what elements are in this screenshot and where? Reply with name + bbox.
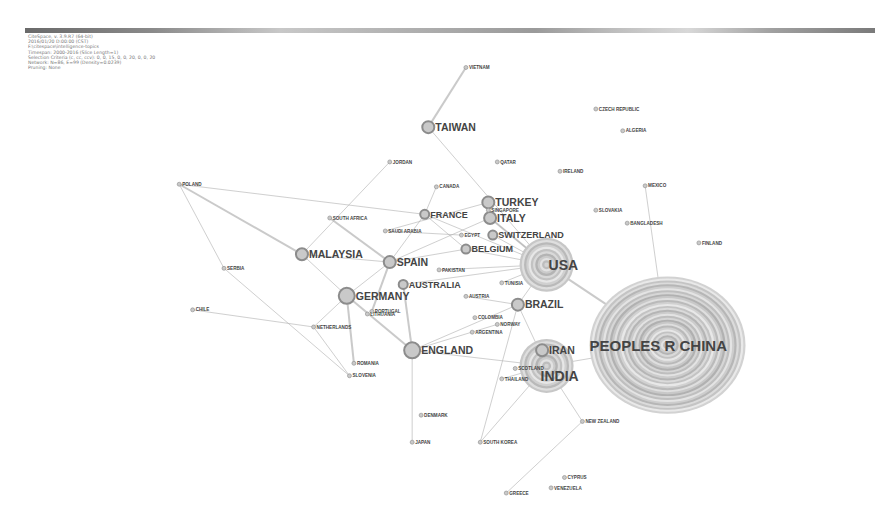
- node-canada[interactable]: [434, 185, 438, 189]
- node-label-slovakia: SLOVAKIA: [599, 208, 623, 213]
- edge-germany-malaysia: [302, 254, 347, 296]
- node-poland[interactable]: [177, 182, 181, 186]
- node-belgium[interactable]: [461, 245, 470, 254]
- node-finland[interactable]: [697, 241, 701, 245]
- node-circle: [410, 440, 414, 444]
- node-label-canada: CANADA: [439, 184, 460, 189]
- node-circle: [437, 268, 441, 272]
- node-vietnam[interactable]: [464, 65, 468, 69]
- node-colombia[interactable]: [473, 316, 477, 320]
- node-label-lithuania: LITHUANIA: [370, 312, 395, 317]
- node-malaysia[interactable]: [296, 248, 308, 260]
- node-saudi-arabia[interactable]: [383, 229, 387, 233]
- node-circle: [500, 377, 504, 381]
- node-label-south-korea: SOUTH KOREA: [483, 440, 518, 445]
- node-cyprus[interactable]: [562, 475, 566, 479]
- node-chile[interactable]: [191, 308, 195, 312]
- node-ireland[interactable]: [558, 169, 562, 173]
- node-algeria[interactable]: [621, 129, 625, 133]
- node-circle: [461, 245, 470, 254]
- node-england[interactable]: [404, 342, 420, 358]
- node-italy[interactable]: [484, 212, 496, 224]
- node-slovakia[interactable]: [594, 208, 598, 212]
- node-label-serbia: SERBIA: [227, 266, 245, 271]
- node-circle: [384, 256, 396, 268]
- node-germany[interactable]: [339, 288, 355, 304]
- node-label-cyprus: CYPRUS: [567, 475, 586, 480]
- node-slovenia[interactable]: [347, 374, 351, 378]
- node-circle: [478, 440, 482, 444]
- node-circle: [191, 308, 195, 312]
- node-bangladesh[interactable]: [625, 221, 629, 225]
- node-label-taiwan: TAIWAN: [435, 121, 476, 133]
- node-circle: [352, 361, 356, 365]
- node-singapore[interactable]: [486, 208, 490, 212]
- node-scotland[interactable]: [513, 366, 517, 370]
- node-label-new-zealand: NEW ZEALAND: [585, 419, 620, 424]
- node-label-england: ENGLAND: [421, 344, 473, 356]
- node-egypt[interactable]: [459, 233, 463, 237]
- node-circle: [422, 121, 434, 133]
- node-circle: [504, 491, 508, 495]
- node-circle: [470, 330, 474, 334]
- node-label-china: PEOPLES R CHINA: [590, 337, 728, 354]
- node-thailand[interactable]: [500, 377, 504, 381]
- node-circle: [580, 419, 584, 423]
- node-japan[interactable]: [410, 440, 414, 444]
- node-romania[interactable]: [352, 361, 356, 365]
- network-canvas[interactable]: PEOPLES R CHINAUSAINDIAIRANENGLANDGERMAN…: [0, 0, 896, 519]
- edge-greece-new-zealand: [506, 421, 582, 493]
- node-taiwan[interactable]: [422, 121, 434, 133]
- node-label-italy: ITALY: [497, 212, 526, 224]
- node-circle: [464, 294, 468, 298]
- node-venezuela[interactable]: [549, 486, 553, 490]
- node-south-korea[interactable]: [478, 440, 482, 444]
- node-label-scotland: SCOTLAND: [518, 366, 544, 371]
- node-circle: [558, 169, 562, 173]
- node-label-pakistan: PAKISTAN: [442, 268, 465, 273]
- node-norway[interactable]: [495, 322, 499, 326]
- node-jordan[interactable]: [388, 160, 392, 164]
- node-greece[interactable]: [504, 491, 508, 495]
- node-czech[interactable]: [594, 107, 598, 111]
- node-spain[interactable]: [384, 256, 396, 268]
- node-tunisia[interactable]: [500, 281, 504, 285]
- node-circle: [296, 248, 308, 260]
- node-australia[interactable]: [399, 280, 408, 289]
- node-circle: [562, 475, 566, 479]
- node-new-zealand[interactable]: [580, 419, 584, 423]
- node-south-africa[interactable]: [328, 216, 332, 220]
- node-argentina[interactable]: [470, 330, 474, 334]
- node-circle: [177, 182, 181, 186]
- node-denmark[interactable]: [419, 413, 423, 417]
- node-label-turkey: TURKEY: [495, 196, 538, 208]
- node-austria[interactable]: [464, 294, 468, 298]
- node-turkey[interactable]: [482, 196, 494, 208]
- node-iran[interactable]: [536, 344, 548, 356]
- node-label-south-africa: SOUTH AFRICA: [333, 216, 368, 221]
- node-qatar[interactable]: [495, 160, 499, 164]
- node-serbia[interactable]: [222, 266, 226, 270]
- node-lithuania[interactable]: [365, 312, 369, 316]
- node-label-qatar: QATAR: [500, 160, 516, 165]
- node-mexico[interactable]: [643, 184, 647, 188]
- node-netherlands[interactable]: [312, 325, 316, 329]
- node-label-colombia: COLOMBIA: [478, 315, 504, 320]
- node-label-saudi-arabia: SAUDI ARABIA: [388, 229, 422, 234]
- edge-serbia-slovenia: [224, 268, 349, 375]
- node-label-australia: AUSTRALIA: [409, 280, 461, 290]
- node-label-finland: FINLAND: [702, 241, 723, 246]
- node-brazil[interactable]: [512, 299, 524, 311]
- node-label-algeria: ALGERIA: [626, 128, 647, 133]
- node-switzerland[interactable]: [488, 231, 497, 240]
- node-circle: [473, 316, 477, 320]
- node-label-japan: JAPAN: [415, 440, 431, 445]
- edge-england-germany: [347, 296, 412, 350]
- edge-netherlands-chile: [193, 310, 314, 327]
- node-circle: [513, 366, 517, 370]
- node-pakistan[interactable]: [437, 268, 441, 272]
- node-label-tunisia: TUNISIA: [505, 281, 524, 286]
- node-circle: [488, 231, 497, 240]
- node-france[interactable]: [420, 210, 429, 219]
- node-circle: [486, 208, 490, 212]
